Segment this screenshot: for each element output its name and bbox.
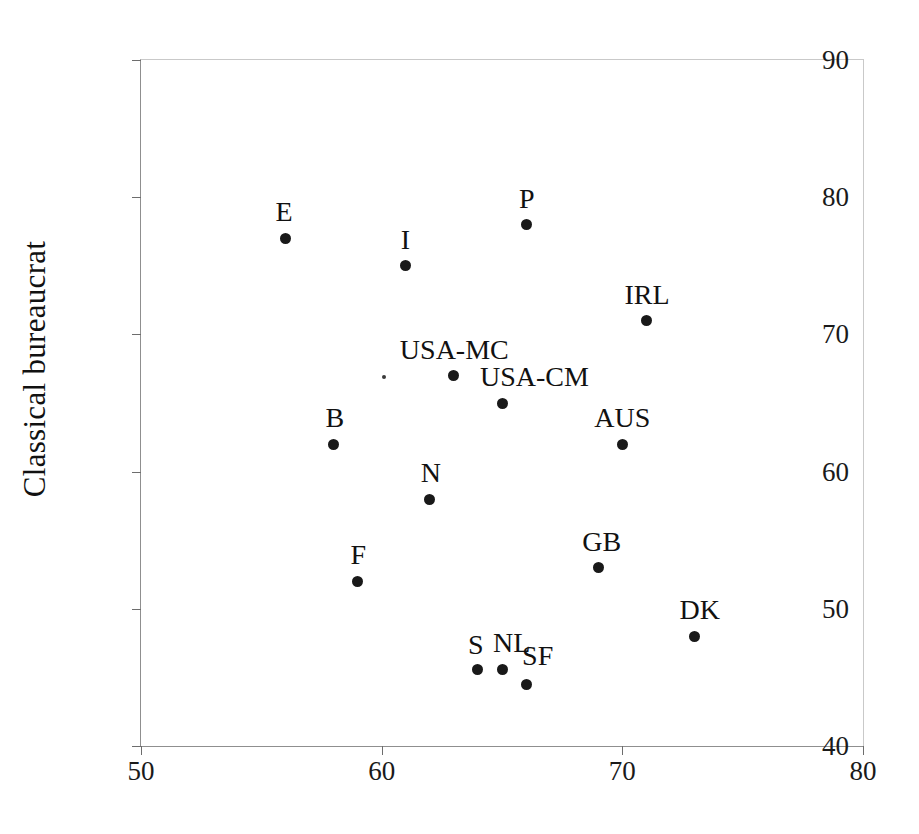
x-tick-label: 80: [850, 758, 877, 785]
data-point-label: S: [468, 631, 484, 659]
y-tick-label: 60: [822, 458, 849, 485]
y-tick-label: 80: [822, 184, 849, 211]
data-point[interactable]: [497, 398, 508, 409]
y-tick-label: 90: [822, 47, 849, 74]
x-tick-label: 60: [368, 758, 395, 785]
y-tick-mark: [132, 609, 141, 610]
data-point[interactable]: [521, 219, 532, 230]
data-point-label: N: [421, 459, 441, 487]
data-point-label: AUS: [594, 404, 650, 432]
data-point-label: IRL: [624, 281, 669, 309]
x-tick-mark: [622, 746, 623, 755]
data-point-label: B: [326, 404, 345, 432]
data-point[interactable]: [448, 370, 459, 381]
data-point[interactable]: [424, 494, 435, 505]
x-tick-mark: [141, 746, 142, 755]
data-point[interactable]: [521, 679, 532, 690]
data-point-label: E: [275, 198, 292, 226]
minor-mark: [382, 375, 386, 379]
y-tick-label: 50: [822, 595, 849, 622]
data-point[interactable]: [617, 439, 628, 450]
data-point[interactable]: [497, 664, 508, 675]
data-point-label: I: [401, 226, 410, 254]
x-tick-label: 70: [609, 758, 636, 785]
data-point-label: DK: [680, 596, 720, 624]
y-tick-mark: [132, 60, 141, 61]
data-point[interactable]: [641, 315, 652, 326]
data-point-label: P: [519, 185, 535, 213]
data-point-label: SF: [522, 642, 553, 670]
data-point[interactable]: [328, 439, 339, 450]
x-tick-label: 50: [128, 758, 155, 785]
plot-area: 405060708090 50607080 EIPIRLUSA-MCUSA-CM…: [140, 59, 864, 747]
data-point[interactable]: [689, 631, 700, 642]
data-point-label: F: [351, 541, 367, 569]
y-tick-label: 40: [822, 733, 849, 760]
y-tick-mark: [132, 197, 141, 198]
y-tick-mark: [132, 472, 141, 473]
data-point-label: GB: [582, 528, 621, 556]
data-point[interactable]: [400, 260, 411, 271]
y-tick-label: 70: [822, 321, 849, 348]
x-tick-mark: [382, 746, 383, 755]
y-axis-title: Classical bureaucrat: [12, 0, 58, 786]
data-point-label: USA-CM: [480, 363, 589, 391]
data-point[interactable]: [472, 664, 483, 675]
data-point-label: USA-MC: [400, 336, 509, 364]
y-tick-mark: [132, 334, 141, 335]
data-point[interactable]: [280, 233, 291, 244]
scatter-plot-figure: Classical bureaucrat 405060708090 506070…: [0, 0, 919, 834]
data-point[interactable]: [593, 562, 604, 573]
x-tick-mark: [863, 746, 864, 755]
y-tick-mark: [132, 746, 141, 747]
data-point[interactable]: [352, 576, 363, 587]
